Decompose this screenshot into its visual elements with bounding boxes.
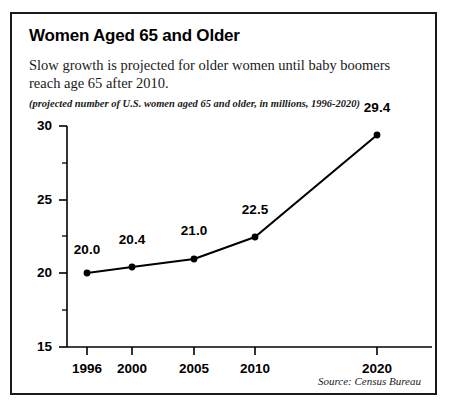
- data-point-2005: [191, 256, 198, 263]
- x-axis-ticks: [87, 347, 377, 355]
- y-tick-label-20: 20: [18, 265, 52, 280]
- data-label-2010: 22.5: [225, 202, 285, 217]
- y-tick-label-30: 30: [18, 118, 52, 133]
- figure-frame: Women Aged 65 and Older Slow growth is p…: [10, 12, 437, 395]
- data-point-2000: [129, 264, 136, 271]
- data-label-2005: 21.0: [164, 223, 224, 238]
- data-point-1996: [84, 270, 91, 277]
- data-point-2020: [374, 132, 381, 139]
- x-tick-label-2010: 2010: [225, 361, 285, 376]
- x-tick-label-2000: 2000: [102, 361, 162, 376]
- source-note: Source: Census Bureau: [318, 375, 421, 387]
- data-label-2000: 20.4: [102, 232, 162, 247]
- y-tick-label-25: 25: [18, 192, 52, 207]
- data-point-2010: [252, 234, 259, 241]
- chart-plot-area: 30 25 20 15 1996 2000 2005 2010 2020 20.…: [12, 14, 439, 397]
- x-tick-label-2005: 2005: [164, 361, 224, 376]
- data-label-2020: 29.4: [347, 100, 407, 115]
- y-tick-label-15: 15: [18, 339, 52, 354]
- x-tick-label-2020: 2020: [347, 361, 407, 376]
